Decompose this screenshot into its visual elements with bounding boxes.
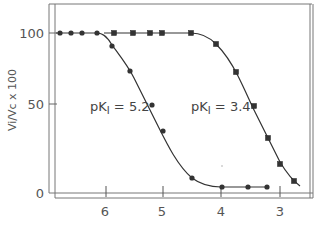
- y-tick-label-100: 100: [19, 26, 44, 41]
- x-tick-label-4: 4: [217, 204, 225, 219]
- annotation-2-value: = 3.4: [211, 99, 251, 114]
- annotation-1-main: pK: [90, 99, 107, 114]
- speck: [221, 165, 223, 167]
- annotation-1-value: = 5.2: [110, 99, 150, 114]
- y-ticks: [49, 33, 57, 104]
- y-axis-title: Vi/Vc x 100: [6, 69, 19, 131]
- x-tick-label-3: 3: [276, 204, 284, 219]
- y-tick-label-0: 0: [36, 186, 44, 201]
- annotation-pk-5-2: pKI = 5.2: [90, 99, 150, 116]
- annotation-pk-3-4: pKI = 3.4: [191, 99, 251, 116]
- annotation-2-main: pK: [191, 99, 208, 114]
- x-tick-label-6: 6: [101, 204, 109, 219]
- x-tick-label-5: 5: [158, 204, 166, 219]
- y-tick-label-50: 50: [27, 97, 44, 112]
- x-ticks: [106, 186, 280, 197]
- chart: 100 50 0 6 5 4 3 Vi/Vc x 100: [0, 0, 316, 226]
